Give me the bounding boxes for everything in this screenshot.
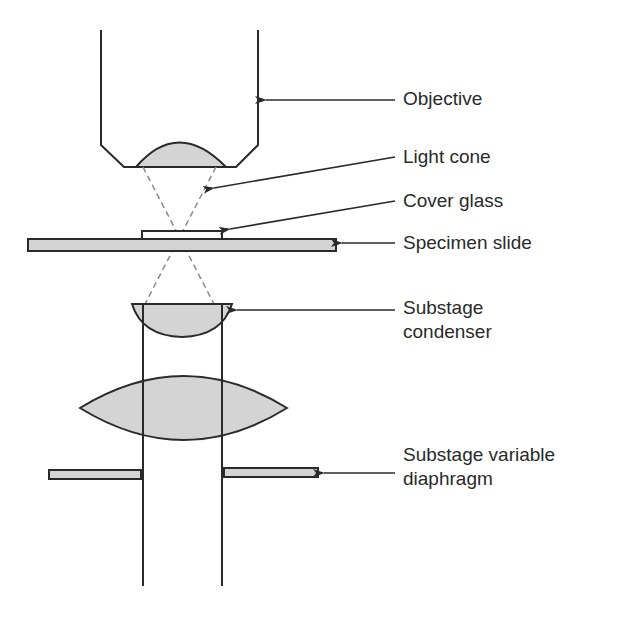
label-objective: Objective [403, 88, 482, 110]
substage-condenser-lens [132, 304, 232, 337]
label-substage-condenser-1: Substage [403, 297, 483, 319]
diaphragm-left-plate [49, 470, 141, 479]
microscope-diagram [0, 0, 632, 622]
label-light-cone: Light cone [403, 146, 491, 168]
objective-lens [136, 143, 226, 168]
collector-lens [80, 376, 287, 440]
cover-glass-arrow [230, 201, 395, 229]
label-diaphragm-1: Substage variable [403, 444, 555, 466]
light-beam [143, 304, 222, 586]
label-diaphragm-2: diaphragm [403, 468, 493, 490]
specimen-slide [28, 239, 336, 251]
label-specimen-slide: Specimen slide [403, 232, 532, 254]
label-substage-condenser-2: condenser [403, 321, 492, 343]
label-cover-glass: Cover glass [403, 190, 503, 212]
diaphragm-right-plate [224, 468, 318, 477]
